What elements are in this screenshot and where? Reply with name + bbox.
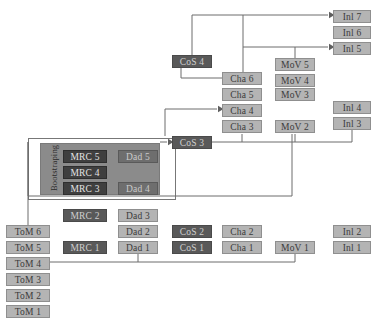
- node-cha1[interactable]: Cha 1: [222, 241, 262, 254]
- node-tom2[interactable]: ToM 2: [6, 289, 50, 302]
- node-mov5[interactable]: MoV 5: [275, 58, 315, 71]
- node-tom4[interactable]: ToM 4: [6, 257, 50, 270]
- node-cos4[interactable]: CoS 4: [172, 55, 212, 68]
- node-tom6[interactable]: ToM 6: [6, 225, 50, 238]
- wire-cos3-to-mov2: [242, 134, 295, 142]
- node-cos1[interactable]: CoS 1: [172, 241, 212, 254]
- node-mrc2[interactable]: MRC 2: [63, 209, 107, 222]
- node-cha3[interactable]: Cha 3: [222, 120, 262, 133]
- node-inl7[interactable]: Inl 7: [333, 10, 371, 23]
- node-dad4[interactable]: Dad 4: [118, 182, 158, 195]
- node-mrc4[interactable]: MRC 4: [63, 166, 107, 179]
- node-inl5[interactable]: Inl 5: [333, 42, 371, 55]
- node-tom1[interactable]: ToM 1: [6, 305, 50, 318]
- node-mov2[interactable]: MoV 2: [275, 120, 315, 133]
- node-dad1[interactable]: Dad 1: [118, 241, 158, 254]
- node-inl6[interactable]: Inl 6: [333, 26, 371, 39]
- wire-cos3-to-cha3: [212, 134, 242, 142]
- node-inl1[interactable]: Inl 1: [333, 241, 371, 254]
- node-mov1[interactable]: MoV 1: [275, 241, 315, 254]
- node-mrc1[interactable]: MRC 1: [63, 241, 107, 254]
- wire-cos4-to-cha6: [181, 67, 222, 78]
- node-mov4[interactable]: MoV 4: [275, 74, 315, 87]
- node-cha2[interactable]: Cha 2: [222, 225, 262, 238]
- diagram-canvas: Bootstraping ToM 6ToM 5ToM 4ToM 3ToM 2To…: [0, 0, 379, 321]
- node-mrc5[interactable]: MRC 5: [63, 150, 107, 163]
- node-inl4[interactable]: Inl 4: [333, 101, 371, 114]
- node-dad2[interactable]: Dad 2: [118, 225, 158, 238]
- node-mrc3[interactable]: MRC 3: [63, 182, 107, 195]
- node-cos3[interactable]: CoS 3: [172, 136, 212, 149]
- node-tom3[interactable]: ToM 3: [6, 273, 50, 286]
- wire-tom4-to-mov1: [138, 254, 295, 262]
- wire-cos3-to-cha4: [165, 109, 217, 136]
- node-cos2[interactable]: CoS 2: [172, 225, 212, 238]
- node-mov3[interactable]: MoV 3: [275, 88, 315, 101]
- node-tom5[interactable]: ToM 5: [6, 241, 50, 254]
- node-cha6[interactable]: Cha 6: [222, 72, 262, 85]
- node-inl2[interactable]: Inl 2: [333, 225, 371, 238]
- node-dad5[interactable]: Dad 5: [118, 150, 158, 163]
- node-inl3[interactable]: Inl 3: [333, 117, 371, 130]
- wire-tom4-to-dad1: [50, 254, 138, 262]
- node-cha4[interactable]: Cha 4: [222, 104, 262, 117]
- connector-layer: [0, 0, 379, 321]
- node-cha5[interactable]: Cha 5: [222, 88, 262, 101]
- wire-cos4-to-inl7: [192, 15, 328, 55]
- node-dad3[interactable]: Dad 3: [118, 209, 158, 222]
